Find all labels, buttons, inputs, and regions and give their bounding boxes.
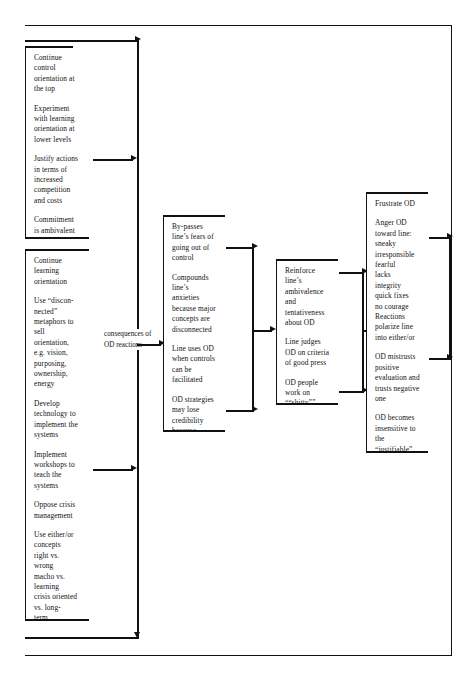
box-paragraph: Oppose crisis management [34, 500, 83, 521]
box-paragraph: Commitment is ambivalent and ambivalence… [34, 215, 83, 239]
box-paragraph: By-passes line’s fears of going out of c… [172, 222, 219, 264]
col2-top-branch-line [226, 247, 254, 249]
col2-to-col3-line [252, 330, 272, 332]
col3-top-branch-line [339, 272, 364, 274]
feedback-top-line [25, 40, 139, 42]
box-paragraph: Frustrate OD [375, 199, 422, 209]
box-paragraph: OD people work on ““shitty”” issues [285, 378, 332, 405]
box-paragraph: OD strategies may lose credibility becau… [172, 395, 219, 432]
frame-bottom-line [25, 655, 452, 656]
box-paragraph: Compounds line’s anxieties because major… [172, 273, 219, 335]
col4-collector-riser [449, 237, 451, 359]
frame-top-line [25, 25, 452, 26]
feedback-down-arrowhead [134, 632, 140, 638]
connector-box1-to-riser [93, 159, 133, 161]
connector-label-consequences: consequences of OD reactions [103, 329, 161, 350]
col2-bottom-branch-line [226, 410, 254, 412]
box-paragraph: Justify actions in terms of increased co… [34, 154, 83, 206]
connector-box1-arrowhead [131, 155, 137, 161]
col2-collector-riser [252, 247, 254, 411]
box-reinforce: Reinforce line’s ambivalence and tentati… [276, 259, 338, 405]
col4-bottom-branch-arrowhead [447, 354, 453, 360]
col2-bottom-branch-arrowhead [252, 406, 258, 412]
col4-top-branch-arrowhead [447, 233, 453, 239]
col2-top-branch-arrowhead [252, 243, 258, 249]
box-paragraph: Reinforce line’s ambivalence and tentati… [285, 266, 332, 328]
box-paragraph: Experiment with learning orientation at … [34, 104, 83, 146]
connector-label-line [137, 344, 161, 346]
box-paragraph: Develop technology to implement the syst… [34, 399, 83, 441]
box-paragraph: Line judges OD on criteria of good press [285, 337, 332, 368]
box-paragraph: Continue learning orientation [34, 256, 83, 287]
box-frustrate-od: Frustrate OD Anger OD toward line: sneak… [366, 192, 428, 453]
box-bypasses: By-passes line’s fears of going out of c… [163, 215, 225, 432]
box-paragraph: OD becomes insensitive to the “justifiab… [375, 413, 422, 453]
box-paragraph: OD mistrusts positive evaluation and tru… [375, 352, 422, 404]
box-control-orientation: Continue control orientation at the top … [25, 46, 89, 239]
feedback-bottom-line [25, 637, 139, 639]
col3-collector-riser [362, 272, 364, 392]
feedback-right-arrowhead [135, 36, 141, 42]
box-paragraph: Continue control orientation at the top [34, 53, 83, 95]
diagram-canvas: Continue control orientation at the top … [0, 0, 473, 693]
frame-right-line [451, 25, 452, 656]
box-paragraph: Use “discon- nected” metaphors to sell o… [34, 296, 83, 390]
box-paragraph: Implement workshops to teach the systems [34, 450, 83, 492]
connector-box2-arrowhead [131, 465, 137, 471]
box-learning-orientation: Continue learning orientation Use “disco… [25, 249, 89, 621]
connector-box2-to-riser [93, 469, 133, 471]
col3-bottom-branch-line [339, 391, 364, 393]
box-paragraph: Anger OD toward line: sneaky irresponsib… [375, 218, 422, 343]
box-paragraph: Use either/or concepts right vs. wrong m… [34, 530, 83, 621]
box-paragraph: Line uses OD when controls can be facili… [172, 344, 219, 386]
